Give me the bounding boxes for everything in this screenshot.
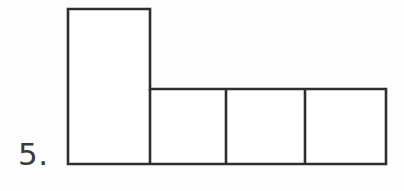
l-shape-diagram (0, 0, 404, 191)
square-3-face (305, 89, 386, 164)
square-1-face (150, 89, 226, 164)
tall-rectangle-face (68, 9, 150, 164)
square-2-face (226, 89, 305, 164)
figure-canvas: 5. (0, 0, 404, 191)
